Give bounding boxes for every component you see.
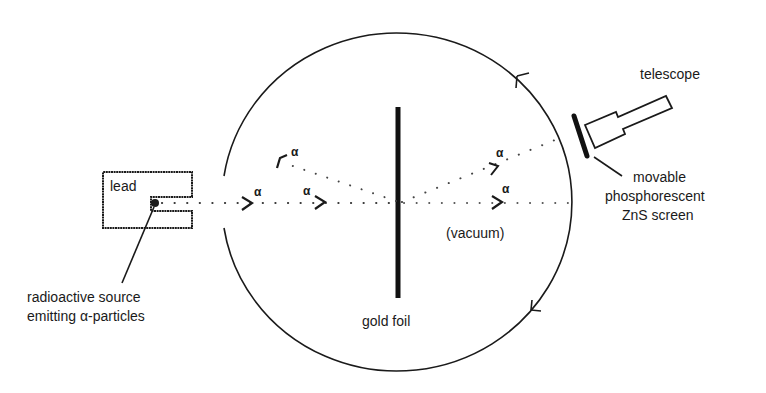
telescope <box>585 96 672 148</box>
vacuum-label: (vacuum) <box>446 225 504 241</box>
back-scattered-arrow <box>277 155 287 168</box>
source-pointer-line <box>122 207 154 283</box>
radioactive-source-dot <box>151 199 159 207</box>
alpha-label-1: α <box>254 185 262 199</box>
telescope-label: telescope <box>640 66 700 82</box>
beam-arrow-3 <box>492 196 502 209</box>
screen-label-line3: ZnS screen <box>622 207 694 223</box>
screen-label-line1: movable <box>633 169 686 185</box>
alpha-label-3: α <box>291 145 299 159</box>
alpha-label-5: α <box>502 182 510 196</box>
screen-pointer-line <box>594 157 622 176</box>
source-label-line1: radioactive source <box>27 289 141 305</box>
screen-label-line2: phosphorescent <box>605 188 705 204</box>
beam-arrow-1 <box>242 197 252 210</box>
deflected-beam <box>402 140 555 202</box>
source-label-line2: emitting α-particles <box>27 308 145 324</box>
alpha-label-2: α <box>303 184 311 198</box>
alpha-label-4: α <box>496 146 504 160</box>
zns-screen <box>574 116 587 156</box>
rutherford-diagram: lead radioactive source emitting α-parti… <box>0 0 766 393</box>
lead-label: lead <box>110 178 136 194</box>
deflected-arrow <box>489 163 498 175</box>
beam-arrow-2 <box>315 196 325 209</box>
gold-foil-label: gold foil <box>362 313 410 329</box>
